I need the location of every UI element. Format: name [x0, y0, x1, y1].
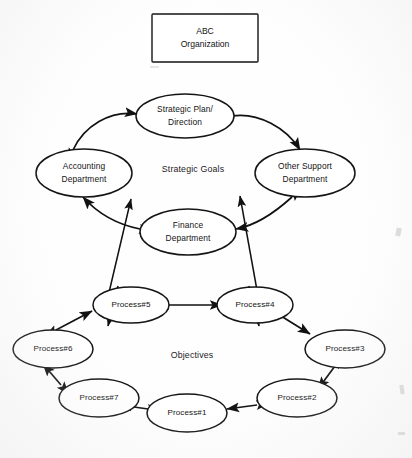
title-box: ABC Organization [152, 14, 258, 62]
node-process-7[interactable]: Process#7 [59, 379, 139, 417]
node-other-support-department[interactable]: Other Support Department [255, 149, 355, 197]
node-process-7-label: Process#7 [79, 393, 119, 402]
node-strategic-plan-line1: Strategic Plan/ [157, 104, 214, 114]
node-finance-line1: Finance [173, 220, 204, 230]
edge-strategicplan-othersupport [232, 115, 300, 150]
node-strategic-plan-line2: Direction [168, 117, 202, 127]
node-finance-line2: Department [166, 233, 211, 243]
scan-speck [150, 66, 159, 68]
node-strategic-plan[interactable]: Strategic Plan/ Direction [136, 94, 234, 138]
node-accounting-department[interactable]: Accounting Department [36, 149, 132, 197]
node-process-1[interactable]: Process#1 [147, 394, 227, 432]
node-process-6[interactable]: Process#6 [13, 330, 93, 368]
edge-process6-process5 [56, 311, 92, 330]
node-process-2-label: Process#2 [277, 393, 317, 402]
edge-finance-accounting [83, 197, 140, 229]
node-process-3[interactable]: Process#3 [305, 330, 385, 368]
node-finance-department[interactable]: Finance Department [140, 209, 236, 255]
node-process-4-label: Process#4 [235, 300, 275, 309]
title-box-line1: ABC [196, 26, 214, 36]
node-process-1-label: Process#1 [167, 408, 207, 417]
node-process-2[interactable]: Process#2 [257, 379, 337, 417]
label-objectives: Objectives [171, 350, 214, 360]
node-other-support-line1: Other Support [278, 161, 332, 171]
edge-accounting-strategicplan [73, 113, 137, 150]
node-process-5-label: Process#5 [111, 300, 151, 309]
node-process-3-label: Process#3 [325, 344, 365, 353]
node-process-4[interactable]: Process#4 [217, 287, 293, 323]
process-diagram: ABC Organization [0, 0, 412, 458]
node-process-6-label: Process#6 [33, 344, 73, 353]
node-accounting-line1: Accounting [63, 161, 106, 171]
scan-speck [398, 432, 405, 435]
title-box-line2: Organization [181, 39, 230, 49]
node-other-support-line2: Department [283, 174, 328, 184]
node-process-5[interactable]: Process#5 [93, 287, 169, 323]
edge-process2-process1 [227, 405, 257, 409]
diagram-canvas: ABC Organization [0, 0, 412, 458]
node-accounting-line2: Department [62, 174, 107, 184]
label-strategic-goals: Strategic Goals [162, 164, 225, 174]
edge-process4-process3 [281, 316, 310, 334]
